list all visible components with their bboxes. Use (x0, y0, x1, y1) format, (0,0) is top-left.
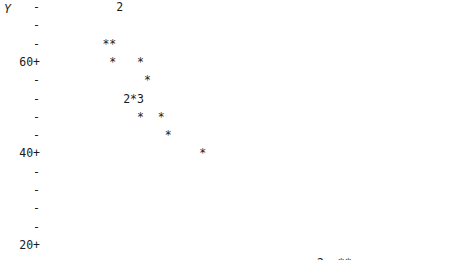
y-axis-minor-tick: - (0, 94, 40, 106)
y-axis-minor-tick: - (0, 203, 40, 215)
plot-row-glyphs: * * (47, 112, 165, 124)
y-axis-major-tick: 20+ (0, 240, 40, 252)
y-axis-minor-tick: - (0, 39, 40, 51)
y-axis-minor-tick: - (0, 2, 40, 14)
character-scatter-plot: Y - 2-- **60+ * *- *- 2*3- * *- *40+ *--… (0, 0, 467, 260)
y-axis-minor-tick: - (0, 130, 40, 142)
y-axis-minor-tick: - (0, 112, 40, 124)
plot-row-glyphs: * (47, 75, 151, 87)
plot-row-glyphs: * (47, 130, 172, 142)
plot-row-glyphs: 2 (47, 2, 123, 14)
y-axis-minor-tick: - (0, 185, 40, 197)
plot-row-glyphs: * (47, 148, 206, 160)
plot-row-glyphs: 2*3 (47, 94, 144, 106)
y-axis-minor-tick: - (0, 167, 40, 179)
y-axis-major-tick: 40+ (0, 148, 40, 160)
y-axis-major-tick: 60+ (0, 57, 40, 69)
y-axis-minor-tick: - (0, 222, 40, 234)
plot-row-glyphs: ** (47, 39, 116, 51)
y-axis-minor-tick: - (0, 75, 40, 87)
y-axis-minor-tick: - (0, 20, 40, 32)
plot-row-glyphs: * * (47, 57, 144, 69)
